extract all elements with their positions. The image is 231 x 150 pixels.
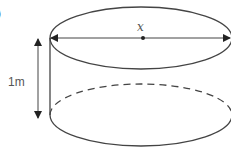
bottom-back-arc [50,84,231,115]
figure-number-fragment: ) [0,6,1,22]
cylinder-diagram [0,0,231,150]
height-label: 1m [8,75,25,89]
diameter-label: x [137,20,144,34]
center-dot [141,36,145,40]
bottom-front-arc [50,115,231,146]
